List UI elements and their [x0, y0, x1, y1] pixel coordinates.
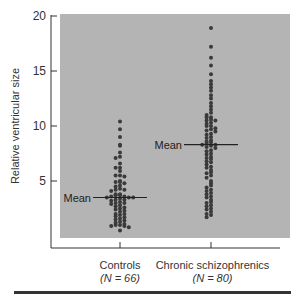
mean-label: Mean — [63, 192, 91, 204]
data-point — [213, 126, 217, 130]
data-point — [209, 79, 213, 83]
data-point — [118, 155, 122, 159]
data-point — [205, 133, 209, 137]
data-point — [114, 166, 118, 170]
data-point — [209, 179, 213, 183]
data-point — [213, 119, 217, 123]
data-point — [118, 135, 122, 139]
data-point — [209, 72, 213, 76]
data-point — [209, 115, 213, 119]
data-point — [118, 174, 122, 178]
data-point — [127, 225, 131, 229]
data-point — [114, 180, 118, 184]
data-point — [109, 189, 113, 193]
data-point — [205, 113, 209, 117]
x-category-controls: Controls (N = 66) — [80, 259, 160, 285]
data-point — [109, 224, 113, 228]
mean-label: Mean — [154, 139, 182, 151]
data-point — [122, 205, 126, 209]
data-point — [205, 201, 209, 205]
data-point — [118, 179, 122, 183]
data-point — [114, 174, 118, 178]
data-point — [114, 192, 118, 196]
data-point — [205, 171, 209, 175]
x-category-chronic-schizophrenics: Chronic schizophrenics (N = 80) — [150, 259, 275, 285]
data-point — [209, 26, 213, 30]
data-point — [118, 229, 122, 233]
data-point — [114, 198, 118, 202]
data-point — [209, 64, 213, 68]
data-point — [109, 199, 113, 203]
plot-background — [60, 14, 290, 238]
data-point — [114, 156, 118, 160]
data-point — [114, 212, 118, 216]
category-n: (N = 66) — [80, 272, 160, 285]
data-point — [205, 186, 209, 190]
data-point — [209, 188, 213, 192]
dot-plot-chart: 5101520 MeanMean — [0, 0, 297, 297]
y-tick-label: 10 — [33, 119, 47, 133]
data-point — [118, 150, 122, 154]
data-point — [122, 188, 126, 192]
category-label: Controls — [80, 259, 160, 272]
data-point — [118, 143, 122, 147]
category-label: Chronic schizophrenics — [150, 259, 275, 272]
data-point — [122, 175, 126, 179]
data-point — [209, 93, 213, 97]
data-point — [118, 192, 122, 196]
data-point — [118, 166, 122, 170]
y-axis-label: Relative ventricular size — [9, 51, 21, 201]
data-point — [205, 149, 209, 153]
data-point — [118, 161, 122, 165]
y-tick-label: 5 — [39, 174, 46, 188]
data-point — [114, 185, 118, 189]
category-n: (N = 80) — [150, 272, 275, 285]
data-point — [209, 165, 213, 169]
y-tick-label: 15 — [33, 64, 47, 78]
data-point — [205, 176, 209, 180]
bottom-rule — [14, 291, 291, 294]
data-point — [205, 128, 209, 132]
data-point — [205, 212, 209, 216]
data-point — [118, 120, 122, 124]
data-point — [209, 101, 213, 105]
data-point — [209, 45, 213, 49]
data-point — [209, 56, 213, 60]
y-tick-label: 20 — [33, 9, 47, 23]
data-point — [209, 148, 213, 152]
data-point — [209, 132, 213, 136]
data-point — [122, 181, 126, 185]
data-point — [118, 127, 122, 131]
